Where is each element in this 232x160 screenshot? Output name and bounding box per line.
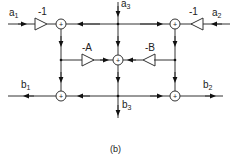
- label-b2: b2: [203, 79, 213, 91]
- label-a3: a3: [121, 0, 131, 10]
- plus-sign: +: [59, 21, 63, 28]
- gain-left-triangle: [35, 18, 47, 30]
- gain-right-label: -1: [189, 6, 198, 17]
- plus-sign: +: [173, 21, 177, 28]
- gain-a-triangle: [82, 54, 94, 66]
- gain-left-label: -1: [38, 6, 47, 17]
- label-a1: a1: [9, 7, 19, 19]
- label-b1: b1: [21, 79, 31, 91]
- label-a2: a2: [212, 7, 222, 19]
- gain-a-label: -A: [82, 42, 92, 53]
- signal-flow-diagram: + + + + + a1 a2 a3 b1 b2 b3 -1 -1 -A -B …: [0, 0, 232, 160]
- figure-caption: (b): [110, 144, 121, 154]
- gain-b-label: -B: [145, 42, 155, 53]
- plus-sign: +: [116, 57, 120, 64]
- gain-b-triangle: [143, 54, 155, 66]
- plus-sign: +: [173, 93, 177, 100]
- plus-sign: +: [59, 93, 63, 100]
- gain-right-triangle: [191, 18, 203, 30]
- label-b3: b3: [122, 99, 132, 111]
